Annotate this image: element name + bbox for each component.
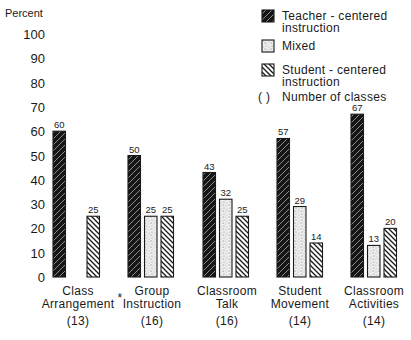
category-label: Instruction <box>123 297 182 311</box>
value-label: 50 <box>129 144 140 155</box>
value-label: 20 <box>385 216 396 227</box>
bar-light-hatch-1 <box>161 216 174 277</box>
value-label: 14 <box>311 231 322 242</box>
y-tick-label: 10 <box>31 246 45 261</box>
bar-stipple-3 <box>294 207 307 277</box>
category-count: (14) <box>289 314 312 328</box>
legend-note-label: Number of classes <box>282 90 386 104</box>
bar-dark-hatch-1 <box>128 156 141 278</box>
y-tick-label: 30 <box>31 197 45 212</box>
y-tick-label: 90 <box>31 51 45 66</box>
bar-stipple-1 <box>145 216 158 277</box>
bar-light-hatch-0 <box>87 216 100 277</box>
value-label: 57 <box>278 126 289 137</box>
value-label: 32 <box>220 187 231 198</box>
y-axis-ticks: 0102030405060708090100 <box>23 27 45 285</box>
bar-dark-hatch-0 <box>53 131 66 277</box>
bar-light-hatch-3 <box>310 243 323 277</box>
bar-dark-hatch-3 <box>277 138 290 277</box>
category-label: Classroom <box>197 284 257 298</box>
bar-dark-hatch-4 <box>351 114 364 277</box>
bar-stipple-4 <box>368 245 381 277</box>
category-count: (16) <box>216 314 239 328</box>
value-label: 25 <box>88 204 99 215</box>
category-count: (14) <box>363 314 386 328</box>
legend: Teacher - centeredinstructionMixedStuden… <box>258 9 387 104</box>
bar-light-hatch-4 <box>384 228 397 277</box>
y-tick-label: 100 <box>23 27 45 42</box>
bar-light-hatch-2 <box>236 216 249 277</box>
y-tick-label: 70 <box>31 100 45 115</box>
y-tick-label: 0 <box>38 270 45 285</box>
value-label: 25 <box>237 204 248 215</box>
value-label: 60 <box>54 119 65 130</box>
legend-swatch-dark-hatch <box>262 10 274 22</box>
value-label: 25 <box>162 204 173 215</box>
y-tick-label: 80 <box>31 76 45 91</box>
category-label: Movement <box>271 297 330 311</box>
category-count: (13) <box>67 314 90 328</box>
legend-label: Mixed <box>282 39 316 53</box>
bar-stipple-2 <box>220 199 233 277</box>
value-label: 13 <box>368 233 379 244</box>
y-axis-label: Percent <box>5 7 43 19</box>
bar-chart: Percent 0102030405060708090100 602550252… <box>0 0 411 340</box>
category-label: Classroom <box>344 284 404 298</box>
y-tick-label: 40 <box>31 173 45 188</box>
category-label: Group <box>135 284 170 298</box>
value-label: 25 <box>145 204 156 215</box>
value-label: 29 <box>294 195 305 206</box>
bar-dark-hatch-2 <box>203 173 216 277</box>
category-label: Arrangement <box>42 297 115 311</box>
y-tick-label: 50 <box>31 149 45 164</box>
value-label: 43 <box>204 161 215 172</box>
legend-note-symbol: ( ) <box>258 90 270 104</box>
y-tick-label: 20 <box>31 221 45 236</box>
legend-label: instruction <box>282 21 340 35</box>
legend-label: instruction <box>282 75 340 89</box>
category-count: (16) <box>141 314 164 328</box>
category-label: Activities <box>349 297 399 311</box>
category-label: Student <box>278 284 322 298</box>
legend-swatch-light-hatch <box>262 64 274 76</box>
category-label: Talk <box>216 297 239 311</box>
legend-swatch-stipple <box>262 40 274 52</box>
category-labels: ClassArrangement*(13)GroupInstruction(16… <box>42 284 404 328</box>
category-label: Class <box>62 284 94 298</box>
y-tick-label: 60 <box>31 124 45 139</box>
